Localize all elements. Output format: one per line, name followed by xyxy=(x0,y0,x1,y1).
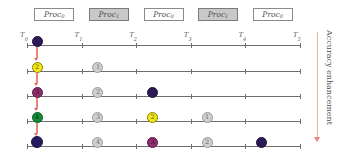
proc-box-1: Proc1 xyxy=(89,8,129,21)
proc-box-0: Proc0 xyxy=(34,8,74,21)
row-transition-arrow-stem-3 xyxy=(36,123,37,133)
proc-box-3: Proc1 xyxy=(198,8,238,21)
timeline-tick-row-3-t3 xyxy=(191,119,192,124)
timeline-tick-row-0-t4 xyxy=(245,43,246,48)
proc-box-2: Proc0 xyxy=(144,8,184,21)
timeline-tick-row-1-t4 xyxy=(245,69,246,74)
node-row0-slot0: 1 xyxy=(32,36,43,47)
timeline-tick-row-3-t4 xyxy=(245,119,246,124)
timeline-tick-row-0-t1 xyxy=(82,43,83,48)
timeline-tick-row-2-t4 xyxy=(245,94,246,99)
node-row4-slot0: 5 xyxy=(31,136,43,148)
node-row4-slot2: 3 xyxy=(147,137,158,148)
time-label-1: T1 xyxy=(75,31,83,40)
timeline-tick-row-1-t1 xyxy=(82,69,83,74)
proc-box-label-2: Proc xyxy=(153,10,170,19)
time-label-0: T0 xyxy=(20,31,28,40)
timeline-tick-row-2-t1 xyxy=(82,94,83,99)
timeline-tick-row-4-t2 xyxy=(136,144,137,149)
timeline-tick-row-3-t2 xyxy=(136,119,137,124)
timeline-axis-row-2 xyxy=(27,96,300,97)
row-transition-arrow-stem-0 xyxy=(36,47,37,58)
row-transition-arrow-head-2 xyxy=(34,108,38,111)
row-transition-arrow-stem-2 xyxy=(36,98,37,108)
timeline-tick-row-1-t5 xyxy=(300,69,301,74)
timeline-tick-row-3-t0 xyxy=(27,119,28,124)
accuracy-arrow-head-icon xyxy=(314,137,320,142)
timeline-tick-row-4-t3 xyxy=(191,144,192,149)
timeline-tick-row-1-t0 xyxy=(27,69,28,74)
node-row1-slot0: 2 xyxy=(32,62,43,73)
time-label-text-0: T xyxy=(20,31,25,39)
timeline-tick-row-3-t5 xyxy=(300,119,301,124)
proc-box-subscript-4: 0 xyxy=(280,13,283,19)
row-transition-arrow-head-3 xyxy=(34,133,38,136)
timeline-tick-row-2-t0 xyxy=(27,94,28,99)
time-label-subscript-1: 1 xyxy=(79,36,82,42)
accuracy-arrow-stem xyxy=(317,32,318,137)
time-label-subscript-3: 3 xyxy=(188,36,191,42)
timeline-tick-row-2-t3 xyxy=(191,94,192,99)
timeline-tick-row-0-t3 xyxy=(191,43,192,48)
timeline-tick-row-3-t1 xyxy=(82,119,83,124)
timeline-axis-row-1 xyxy=(27,71,300,72)
time-label-5: T5 xyxy=(293,31,301,40)
time-label-subscript-0: 0 xyxy=(25,36,28,42)
proc-box-subscript-2: 0 xyxy=(171,13,174,19)
timeline-tick-row-4-t4 xyxy=(245,144,246,149)
timeline-tick-row-4-t5 xyxy=(300,144,301,149)
timeline-axis-row-0 xyxy=(27,45,300,46)
time-label-2: T2 xyxy=(129,31,137,40)
node-row2-slot2: 1 xyxy=(147,87,158,98)
row-transition-arrow-stem-1 xyxy=(36,73,37,83)
timeline-axis-row-3 xyxy=(27,121,300,122)
proc-box-subscript-0: 0 xyxy=(61,13,64,19)
time-label-4: T4 xyxy=(238,31,246,40)
timeline-tick-row-0-t5 xyxy=(300,43,301,48)
timeline-tick-row-1-t2 xyxy=(136,69,137,74)
node-row3-slot0: 4 xyxy=(32,112,43,123)
accuracy-enhancement-label: Accuracy enhancement xyxy=(325,30,334,125)
proc-box-4: Proc0 xyxy=(253,8,293,21)
timeline-tick-row-2-t5 xyxy=(300,94,301,99)
row-transition-arrow-head-1 xyxy=(34,83,38,86)
node-row4-slot3: 2 xyxy=(202,137,213,148)
node-row3-slot3: 1 xyxy=(202,112,213,123)
node-row2-slot0: 3 xyxy=(32,87,43,98)
time-label-subscript-4: 4 xyxy=(243,36,246,42)
proc-box-subscript-3: 1 xyxy=(225,13,228,19)
time-label-subscript-2: 2 xyxy=(134,36,137,42)
timeline-tick-row-4-t0 xyxy=(27,144,28,149)
figure-canvas: Proc0Proc1Proc0Proc1Proc0T0T1T2T3T4T5121… xyxy=(0,0,345,159)
proc-box-label-4: Proc xyxy=(262,10,279,19)
timeline-tick-row-4-t1 xyxy=(82,144,83,149)
proc-box-subscript-1: 1 xyxy=(116,13,119,19)
proc-box-label-1: Proc xyxy=(99,10,116,19)
row-transition-arrow-head-0 xyxy=(34,58,38,61)
timeline-tick-row-1-t3 xyxy=(191,69,192,74)
timeline-tick-row-0-t2 xyxy=(136,43,137,48)
proc-box-label-3: Proc xyxy=(208,10,225,19)
time-label-text-5: T xyxy=(293,31,298,39)
timeline-tick-row-0-t0 xyxy=(27,43,28,48)
time-label-3: T3 xyxy=(184,31,192,40)
time-label-subscript-5: 5 xyxy=(298,36,301,42)
node-row3-slot2: 2 xyxy=(147,112,158,123)
proc-box-label-0: Proc xyxy=(44,10,61,19)
timeline-tick-row-2-t2 xyxy=(136,94,137,99)
